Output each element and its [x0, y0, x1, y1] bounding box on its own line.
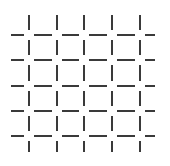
grid-canvas [0, 0, 170, 166]
dashed-grid-figure [0, 0, 170, 166]
